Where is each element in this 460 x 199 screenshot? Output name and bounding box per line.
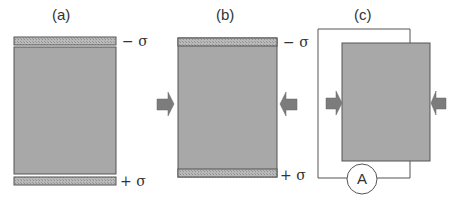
crystal-block	[178, 38, 277, 177]
panel-b-label: (b)	[216, 6, 234, 23]
panel-a: (a) − σ + σ	[14, 6, 148, 189]
circuit-wire	[377, 161, 410, 178]
crystal-block	[342, 43, 430, 161]
negative-charge-label: − σ	[122, 33, 148, 49]
crystal-block	[14, 47, 116, 174]
bottom-electrode	[178, 169, 277, 177]
panel-a-label: (a)	[52, 6, 70, 23]
bottom-electrode	[14, 177, 116, 185]
piezoelectric-diagram: (a) − σ + σ (b) − σ + σ (c) A	[0, 0, 460, 199]
top-electrode	[178, 38, 277, 46]
positive-charge-label: + σ	[120, 173, 146, 189]
force-arrow-icon	[157, 92, 174, 116]
panel-b: (b) − σ + σ	[157, 6, 309, 183]
force-arrow-icon	[280, 92, 297, 116]
negative-charge-label: − σ	[283, 34, 309, 50]
top-electrode	[14, 37, 116, 45]
ammeter-label: A	[357, 170, 367, 187]
force-arrow-icon	[431, 91, 446, 115]
positive-charge-label: + σ	[280, 167, 306, 183]
panel-c: (c) A	[318, 6, 446, 194]
force-arrow-icon	[326, 91, 342, 115]
panel-c-label: (c)	[354, 6, 372, 23]
